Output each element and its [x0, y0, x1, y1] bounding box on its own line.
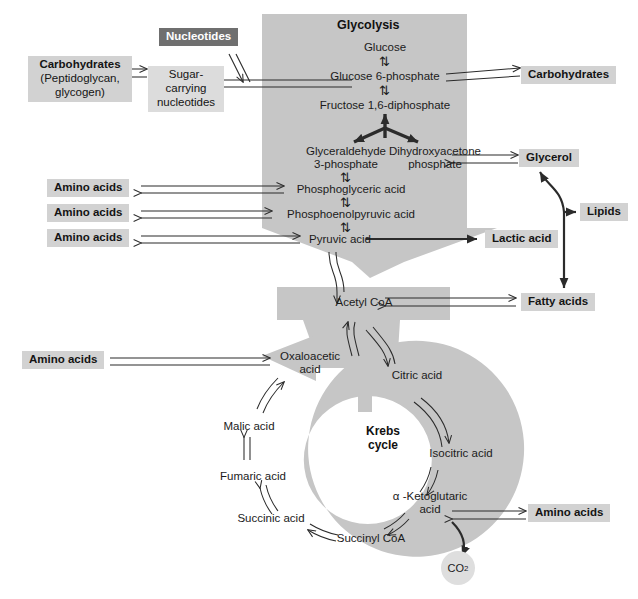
box-sugar-nucleotides-line1: Sugar-carrying — [155, 68, 217, 96]
connector-aa3-pyruvate — [141, 236, 300, 243]
metabolite-alpha-ketoglutaric-acid-line2: acid — [378, 503, 482, 516]
diagram-canvas: Glycolysis Glucose ⇅ Glucose 6-phosphate… — [0, 0, 638, 599]
metabolite-glucose: Glucose — [340, 41, 430, 54]
box-amino-acids-5[interactable]: Amino acids — [528, 504, 610, 522]
metabolite-dihydroxyacetone-phosphate-line1: Dihydroxyacetone — [378, 145, 492, 158]
glycolysis-heading: Glycolysis — [337, 18, 397, 32]
connector-aa4-oxaloacetate — [110, 358, 270, 365]
metabolite-pyruvic-acid: Pyruvic acid — [300, 233, 380, 246]
box-carbohydrates-left-title: Carbohydrates — [35, 58, 125, 72]
metabolite-succinyl-coa: Succinyl CoA — [325, 532, 417, 545]
box-carbohydrates-left[interactable]: Carbohydrates (Peptidoglycan, glycogen) — [28, 56, 132, 102]
box-sugar-nucleotides-line2: nucleotides — [155, 96, 217, 110]
metabolite-citric-acid: Citric acid — [377, 369, 457, 382]
metabolite-dihydroxyacetone-phosphate-line2: phosphate — [378, 158, 492, 171]
metabolite-fumaric-acid: Fumaric acid — [208, 470, 298, 483]
box-amino-acids-4[interactable]: Amino acids — [22, 351, 104, 369]
box-nucleotides[interactable]: Nucleotides — [159, 28, 238, 46]
metabolite-oxaloacetic-acid-line2: acid — [266, 363, 354, 376]
metabolite-fructose-16-diphosphate: Fructose 1,6-diphosphate — [305, 99, 465, 112]
co2-bubble: CO2 — [441, 551, 475, 585]
connector-aa2-pep — [141, 211, 272, 218]
metabolite-acetyl-coa: Acetyl CoA — [318, 296, 410, 309]
box-lactic-acid[interactable]: Lactic acid — [485, 230, 558, 248]
metabolite-phosphoenolpyruvic-acid: Phosphoenolpyruvic acid — [278, 208, 424, 221]
metabolite-alpha-ketoglutaric-acid-line1: α -Ketoglutaric — [378, 490, 482, 503]
metabolite-oxaloacetic-acid-line1: Oxaloacetic — [266, 350, 354, 363]
box-amino-acids-3[interactable]: Amino acids — [47, 229, 129, 247]
box-fatty-acids[interactable]: Fatty acids — [521, 293, 595, 311]
metabolite-malic-acid: Malic acid — [207, 420, 291, 433]
box-carbohydrates-left-sub1: (Peptidoglycan, — [35, 72, 125, 86]
connector-carbs-sugarnucleotides — [131, 69, 147, 77]
krebs-cycle-title-line2: cycle — [348, 438, 418, 452]
box-carbohydrates-right[interactable]: Carbohydrates — [521, 66, 616, 84]
box-lipids[interactable]: Lipids — [580, 203, 628, 221]
box-glycerol[interactable]: Glycerol — [519, 149, 579, 167]
box-amino-acids-2[interactable]: Amino acids — [47, 204, 129, 222]
metabolite-phosphoglyceric-acid: Phosphoglyceric acid — [291, 183, 411, 196]
metabolite-isocitric-acid: Isocitric acid — [415, 447, 507, 460]
box-carbohydrates-left-sub2: glycogen) — [35, 86, 125, 100]
metabolite-glucose-6-phosphate: Glucose 6-phosphate — [315, 70, 455, 83]
co2-subscript: 2 — [464, 564, 468, 573]
reversible-arrow-glucose-g6p: ⇅ — [379, 55, 389, 68]
connector-aa1-pga — [141, 186, 284, 193]
connector-f16dp-split — [354, 114, 418, 142]
connector-g6p-carbs-right — [446, 68, 520, 81]
reversible-arrow-g6p-f16dp: ⇅ — [379, 84, 389, 97]
co2-label: CO — [448, 562, 465, 574]
box-sugar-carrying-nucleotides[interactable]: Sugar-carrying nucleotides — [148, 66, 224, 112]
krebs-cycle-title-line1: Krebs — [348, 424, 418, 438]
box-amino-acids-1[interactable]: Amino acids — [47, 179, 129, 197]
connector-nucleotides — [229, 54, 250, 82]
metabolite-succinic-acid: Succinic acid — [224, 512, 318, 525]
